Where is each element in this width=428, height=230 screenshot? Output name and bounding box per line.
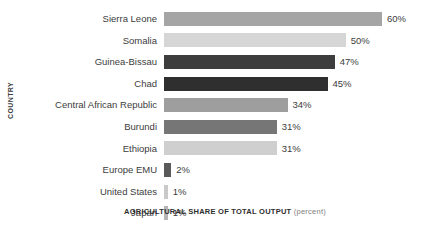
- bar-row: Ethiopia31%: [22, 138, 428, 160]
- y-axis-title: COUNTRY: [0, 0, 22, 200]
- bar-value-label: 50%: [351, 36, 370, 46]
- category-label: Ethiopia: [22, 144, 164, 154]
- bar-row: Guinea-Bissau47%: [22, 51, 428, 73]
- bar-track: 31%: [164, 120, 428, 134]
- x-axis-title: AGRICULTURAL SHARE OF TOTAL OUTPUT (perc…: [22, 207, 428, 216]
- bar-chart: COUNTRY Sierra Leone60%Somalia50%Guinea-…: [0, 0, 428, 230]
- y-axis-title-text: COUNTRY: [8, 81, 15, 118]
- bar: [164, 55, 335, 69]
- bar-value-label: 34%: [293, 100, 312, 110]
- category-label: Chad: [22, 79, 164, 89]
- bar-track: 45%: [164, 77, 428, 91]
- bar-track: 50%: [164, 33, 428, 47]
- bar-value-label: 47%: [340, 57, 359, 67]
- category-label: Guinea-Bissau: [22, 57, 164, 67]
- plot-area: Sierra Leone60%Somalia50%Guinea-Bissau47…: [22, 8, 428, 198]
- bar-track: 1%: [164, 185, 428, 199]
- category-label: Sierra Leone: [22, 14, 164, 24]
- bar-row: Burundi31%: [22, 116, 428, 138]
- bar-track: 47%: [164, 55, 428, 69]
- bar-row: United States1%: [22, 181, 428, 203]
- bar-value-label: 60%: [387, 14, 406, 24]
- bar: [164, 120, 277, 134]
- category-label: Europe EMU: [22, 165, 164, 175]
- bar-row: Europe EMU2%: [22, 159, 428, 181]
- bar: [164, 33, 346, 47]
- x-axis-title-text: AGRICULTURAL SHARE OF TOTAL OUTPUT: [124, 207, 291, 216]
- bar: [164, 12, 382, 26]
- category-label: United States: [22, 187, 164, 197]
- bar-track: 31%: [164, 141, 428, 155]
- bar-track: 60%: [164, 12, 428, 26]
- x-axis-title-units: (percent): [294, 207, 326, 216]
- bar: [164, 141, 277, 155]
- bar-row: Central African Republic34%: [22, 94, 428, 116]
- bar-row: Somalia50%: [22, 30, 428, 52]
- bar: [164, 185, 168, 199]
- bar-row: Sierra Leone60%: [22, 8, 428, 30]
- bar-track: 2%: [164, 163, 428, 177]
- bar-track: 34%: [164, 98, 428, 112]
- bar-value-label: 2%: [176, 165, 190, 175]
- category-label: Central African Republic: [22, 100, 164, 110]
- bar-value-label: 1%: [173, 187, 187, 197]
- bar-value-label: 45%: [333, 79, 352, 89]
- category-label: Somalia: [22, 36, 164, 46]
- bar: [164, 98, 288, 112]
- bar-value-label: 31%: [282, 144, 301, 154]
- bar: [164, 77, 328, 91]
- bar: [164, 163, 171, 177]
- bar-row: Chad45%: [22, 73, 428, 95]
- bar-value-label: 31%: [282, 122, 301, 132]
- category-label: Burundi: [22, 122, 164, 132]
